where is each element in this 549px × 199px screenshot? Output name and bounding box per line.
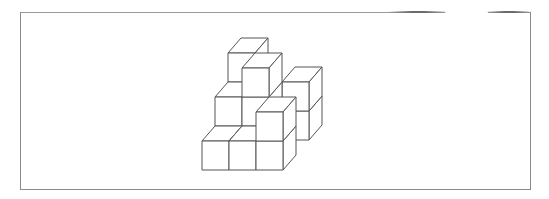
- cube-front-face: [256, 141, 283, 170]
- cube-front-face: [215, 97, 242, 126]
- cube-front-face: [202, 141, 229, 170]
- cube-front-face: [229, 141, 256, 170]
- cube-front-face: [242, 68, 269, 97]
- cube-stack-diagram: [0, 0, 549, 199]
- cube-front-face: [256, 112, 283, 141]
